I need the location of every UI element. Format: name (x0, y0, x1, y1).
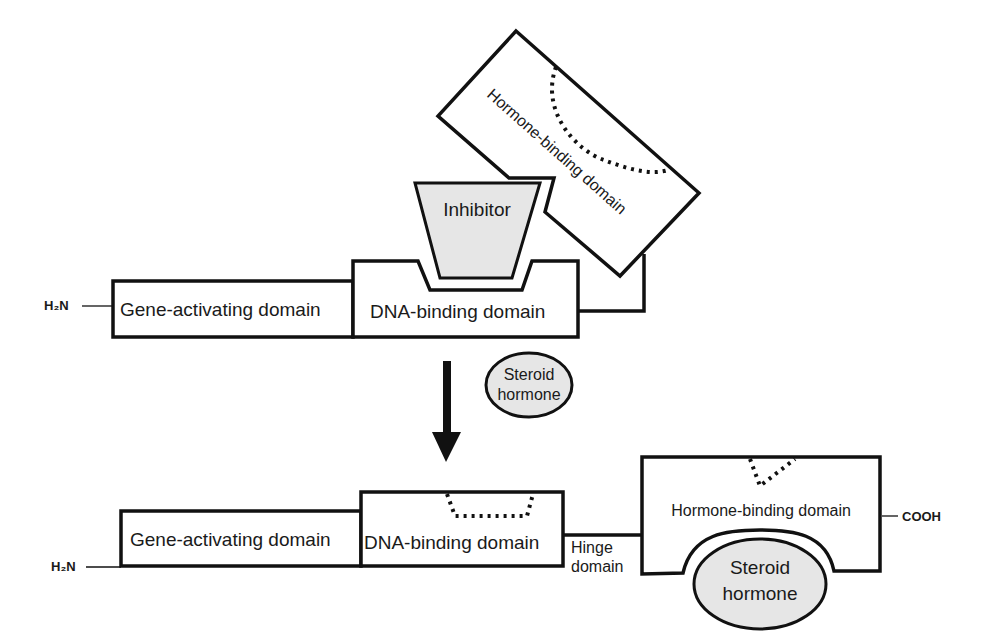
dna-binding-domain-box-bottom (361, 492, 563, 566)
down-arrow-icon (432, 432, 461, 462)
active-receptor: H₂N Gene-activating domain DNA-binding d… (51, 457, 941, 629)
inhibitor-label: Inhibitor (443, 199, 511, 220)
bound-steroid-hormone-label-line1: Steroid (730, 557, 790, 578)
receptor-diagram: H₂N Gene-activating domain DNA-binding d… (0, 0, 994, 644)
gene-activating-domain-label-top: Gene-activating domain (120, 299, 321, 320)
dna-binding-domain-label-bottom: DNA-binding domain (364, 532, 539, 553)
hinge-label-line2: domain (571, 558, 623, 575)
hinge-label-line1: Hinge (571, 539, 613, 556)
bound-steroid-hormone-label-line2: hormone (723, 583, 798, 604)
inactive-receptor: H₂N Gene-activating domain DNA-binding d… (44, 31, 699, 337)
down-arrow-shaft (443, 361, 451, 433)
transition: Steroid hormone (432, 353, 572, 462)
dna-binding-domain-label-top: DNA-binding domain (370, 301, 545, 322)
steroid-hormone-ellipse (486, 353, 572, 417)
inhibitor-shape (415, 183, 540, 278)
hormone-binding-domain-label-bottom: Hormone-binding domain (671, 502, 851, 519)
steroid-hormone-label-line1: Steroid (504, 366, 555, 383)
gene-activating-domain-label-bottom: Gene-activating domain (130, 529, 331, 550)
c-terminus-label: COOH (902, 509, 941, 524)
n-terminus-label-bottom: H₂N (51, 559, 76, 574)
steroid-hormone-label-line2: hormone (497, 386, 560, 403)
n-terminus-label-top: H₂N (44, 298, 69, 313)
